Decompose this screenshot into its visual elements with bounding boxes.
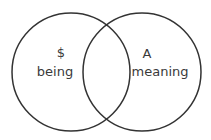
left-set-label: being: [37, 65, 73, 78]
left-set-symbol: $: [57, 46, 65, 59]
right-set-symbol: A: [143, 47, 152, 60]
right-set-label: meaning: [132, 65, 189, 78]
